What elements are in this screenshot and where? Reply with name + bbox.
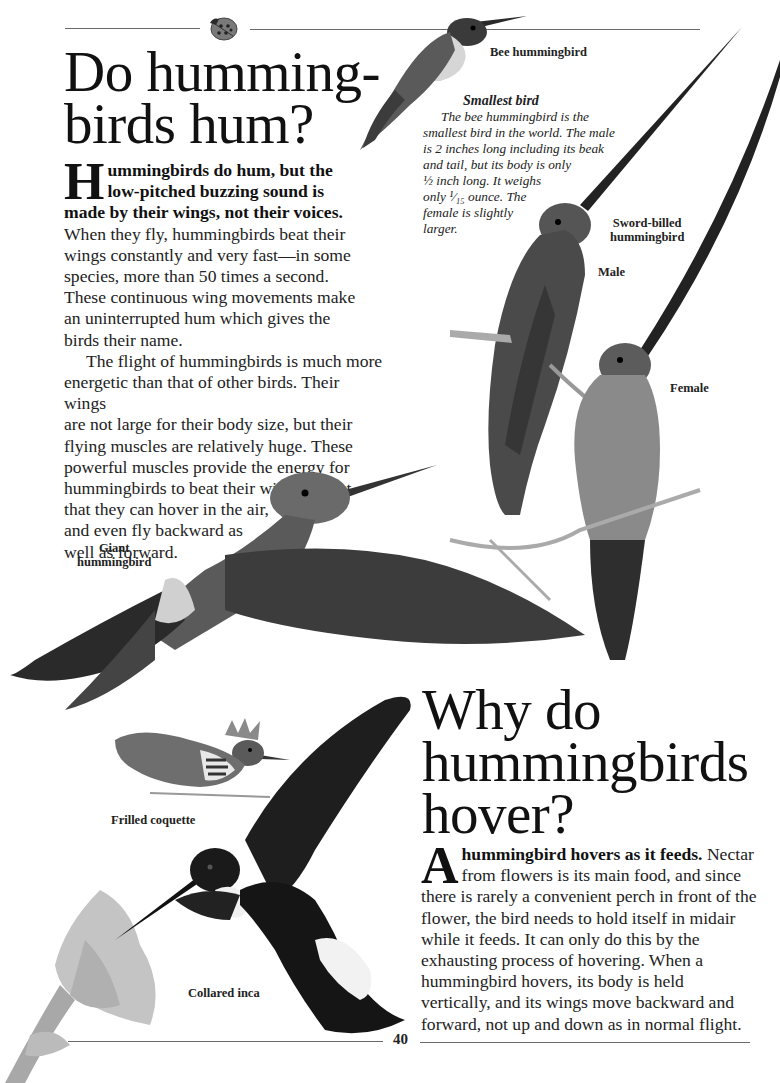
p2-line: are not large for their body size, but t… <box>64 414 384 435</box>
section2-dropcap: A <box>421 846 459 886</box>
label-giant-line2: hummingbird <box>77 555 151 569</box>
section2-title-line2: hummingbirds <box>422 736 749 788</box>
page-number: 40 <box>393 1031 408 1048</box>
section2-body: A hummingbird hovers as it feeds. Nectar… <box>421 844 757 1035</box>
section1-dropcap: H <box>64 162 104 202</box>
bottom-rule-right <box>420 1042 750 1043</box>
section1-title-line2: birds hum? <box>64 98 380 150</box>
section1-paragraph1: Hummingbirds do hum, but the low-pitched… <box>64 160 360 351</box>
ladybug-icon <box>205 14 241 42</box>
top-rule-left <box>65 28 200 29</box>
bottom-rule-left <box>68 1041 383 1042</box>
section2-title-line1: Why do <box>422 684 749 736</box>
label-female: Female <box>670 381 709 395</box>
section2-paragraph1: A hummingbird hovers as it feeds. Nectar… <box>421 844 757 1035</box>
section2-title: Why do hummingbirds hover? <box>422 684 749 840</box>
section1-lead: ummingbirds do hum, but the low-pitched … <box>64 160 343 222</box>
p2-line: energetic than that of other birds. Thei… <box>64 372 384 414</box>
section1-lead-rest: When they fly, hummingbirds beat their w… <box>64 224 355 350</box>
label-giant: Giant hummingbird <box>77 541 151 569</box>
p2-line: The flight of hummingbirds is much more <box>64 351 384 372</box>
collared-inca-illustration <box>115 690 415 1040</box>
section2-title-line3: hover? <box>422 788 749 840</box>
label-giant-line1: Giant <box>77 541 151 555</box>
label-collared-inca: Collared inca <box>188 986 260 1000</box>
section2-lead-rest: Nectar from flowers is its main food, an… <box>421 844 757 1034</box>
section2-lead: hummingbird hovers as it feeds. <box>462 844 703 864</box>
section1-title-line1: Do humming- <box>64 46 380 98</box>
section1-title: Do humming- birds hum? <box>64 46 380 150</box>
p2-line: flying muscles are relatively huge. Thes… <box>64 436 384 457</box>
